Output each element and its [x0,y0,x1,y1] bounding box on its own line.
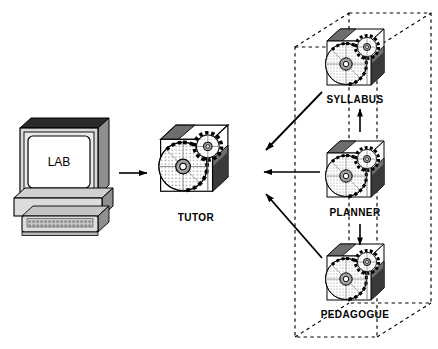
lab-workstation: LAB [14,118,113,236]
node-planner[interactable] [326,141,385,197]
node-syllabus-label: SYLLABUS [326,94,383,105]
lab-screen-label: LAB [48,155,71,169]
node-pedagogue[interactable] [326,244,385,300]
arrow-syllabus-to-tutor [266,92,322,150]
diagram-canvas: LAB TUTOR SYLLABUS PLANNER PEDAGOGUE [0,0,438,349]
node-syllabus[interactable] [326,29,385,85]
arrow-pedagogue-to-tutor [266,194,322,258]
node-planner-label: PLANNER [329,207,381,218]
node-tutor[interactable] [159,125,228,191]
node-tutor-label: TUTOR [178,212,215,223]
node-pedagogue-label: PEDAGOGUE [321,309,390,320]
diagram-svg: LAB TUTOR SYLLABUS PLANNER PEDAGOGUE [0,0,438,349]
